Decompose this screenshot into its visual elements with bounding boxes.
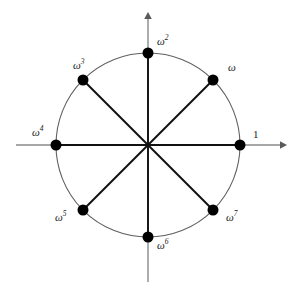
label-1: 1 xyxy=(253,129,259,140)
label-omega6: ω6 xyxy=(157,240,169,251)
root-point-omega4 xyxy=(51,140,62,151)
label-omega3: ω3 xyxy=(73,60,85,71)
root-point-omega3 xyxy=(78,75,89,86)
label-omega5: ω5 xyxy=(55,212,67,223)
label-omega3-base: ω xyxy=(73,59,81,71)
root-point-omega2 xyxy=(143,48,154,59)
label-omega5-exponent: 5 xyxy=(63,209,67,218)
label-omega4-exponent: 4 xyxy=(40,124,44,133)
label-omega: ω xyxy=(228,62,236,73)
label-omega-base: ω xyxy=(228,61,236,73)
root-point-omega7 xyxy=(208,205,219,216)
unit-circle-figure: 1 ω ω2 ω3 ω4 ω5 ω6 ω7 xyxy=(0,0,294,288)
label-omega4: ω4 xyxy=(32,127,44,138)
label-omega7-base: ω xyxy=(226,211,234,223)
label-omega4-base: ω xyxy=(32,126,40,138)
label-omega6-exponent: 6 xyxy=(165,237,169,246)
label-omega2-exponent: 2 xyxy=(165,33,169,42)
horizontal-axis-arrowhead xyxy=(280,141,287,149)
root-point-omega5 xyxy=(78,205,89,216)
root-point-1 xyxy=(235,140,246,151)
label-omega2-base: ω xyxy=(157,35,165,47)
label-omega7: ω7 xyxy=(226,212,238,223)
root-point-omega6 xyxy=(143,232,154,243)
label-omega5-base: ω xyxy=(55,211,63,223)
root-point-omega xyxy=(208,75,219,86)
vertical-axis-arrowhead xyxy=(144,12,152,19)
label-omega3-exponent: 3 xyxy=(81,57,85,66)
label-omega7-exponent: 7 xyxy=(234,209,238,218)
label-omega6-base: ω xyxy=(157,239,165,251)
roots-of-unity-diagram xyxy=(0,0,294,288)
label-omega2: ω2 xyxy=(157,36,169,47)
